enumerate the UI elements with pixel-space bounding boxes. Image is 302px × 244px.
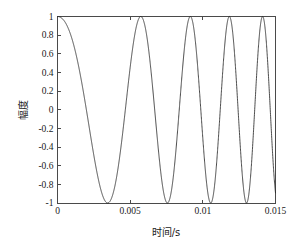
y-tick-label: 0.4 [42,68,54,78]
x-tick-label: 0.01 [195,206,212,216]
y-tick-label: 0.8 [42,30,54,40]
x-tick-label: 0.015 [265,206,287,216]
y-tick-label: -0.6 [38,161,53,171]
x-tick-label: 0.005 [119,206,141,216]
x-tick-label: 0 [55,206,60,216]
y-tick-label: -1 [46,198,54,208]
chirp-line-chart: -1-0.8-0.6-0.4-0.200.20.40.60.81 00.0050… [0,0,302,244]
y-tick-label: 1 [49,12,54,22]
y-axis-title: 幅度 [17,100,29,120]
y-tick-label: -0.8 [38,180,53,190]
y-tick-label: 0.2 [42,86,54,96]
y-tick-label: -0.4 [38,142,53,152]
x-axis-title: 时间/s [152,226,181,238]
y-tick-label: 0.6 [42,49,54,59]
y-tick-label: -0.2 [38,124,53,134]
chart-figure: -1-0.8-0.6-0.4-0.200.20.40.60.81 00.0050… [0,0,302,244]
y-tick-label: 0 [49,105,54,115]
